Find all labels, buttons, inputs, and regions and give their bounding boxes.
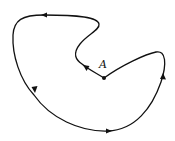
point-a-dot [102,76,106,80]
point-a-label: A [99,59,107,70]
arrow-left-icon [32,86,38,93]
arrow-top-icon [41,13,47,18]
curve-canvas [0,0,175,141]
arrow-right-icon [160,73,166,80]
closed-curve-path [13,15,165,131]
closed-curve-diagram: A [0,0,175,141]
arrow-bottom-icon [106,129,112,134]
